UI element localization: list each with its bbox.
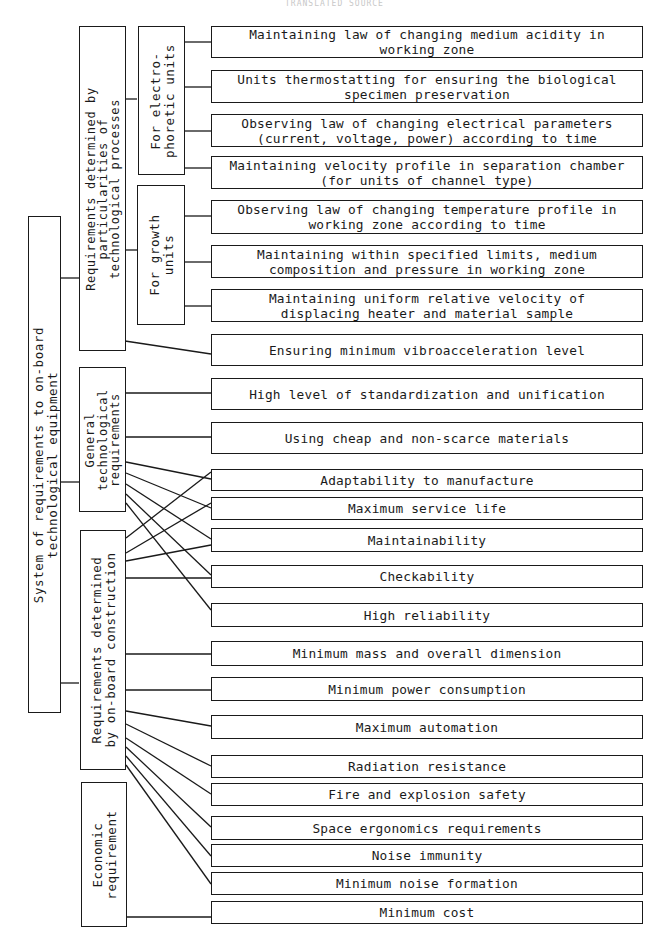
req-space-ergonomics: Space ergonomics requirements: [211, 816, 643, 840]
req-service-life: Maximum service life: [211, 497, 643, 520]
req-high-reliability: High reliability: [211, 603, 643, 627]
req-noise-formation: Minimum noise formation: [211, 872, 643, 895]
req-medium-acidity: Maintaining law of changing medium acidi…: [211, 26, 643, 58]
general-group-label: General technological requirements: [84, 389, 122, 491]
group-box-process-requirements: Requirements determined by particulariti…: [79, 26, 126, 351]
req-medium-composition: Maintaining within specified limits, med…: [211, 245, 643, 278]
root-box-system-of-requirements: System of requirements to on-board techn…: [28, 216, 61, 713]
root-label: System of requirements to on-board techn…: [31, 326, 58, 602]
process-group-label: Requirements determined by particulariti…: [85, 87, 121, 290]
subgroup-box-growth: For growth units: [137, 185, 185, 325]
group-box-economic: Economic requirement: [81, 782, 127, 927]
electrophoretic-label: For electro- phoretic units: [148, 44, 175, 158]
req-uniform-velocity: Maintaining uniform relative velocity of…: [211, 289, 643, 322]
req-thermostatting: Units thermostatting for ensuring the bi…: [211, 70, 643, 103]
req-temperature-profile: Observing law of changing temperature pr…: [211, 200, 643, 234]
group-box-construction: Requirements determined by on-board cons…: [80, 530, 126, 770]
req-adaptability: Adaptability to manufacture: [211, 469, 643, 491]
req-power-consumption: Minimum power consumption: [211, 677, 643, 701]
req-minimum-mass: Minimum mass and overall dimension: [211, 641, 643, 666]
req-maximum-automation: Maximum automation: [211, 715, 643, 739]
growth-label: For growth units: [148, 214, 175, 295]
subgroup-box-electrophoretic: For electro- phoretic units: [138, 26, 185, 175]
req-fire-explosion-safety: Fire and explosion safety: [211, 783, 643, 806]
req-radiation-resistance: Radiation resistance: [211, 755, 643, 778]
req-checkability: Checkability: [211, 565, 643, 588]
req-standardization: High level of standardization and unific…: [211, 378, 643, 410]
req-maintainability: Maintainability: [211, 528, 643, 552]
req-electrical-parameters: Observing law of changing electrical par…: [211, 114, 643, 147]
req-cheap-materials: Using cheap and non-scarce materials: [211, 422, 643, 454]
req-noise-immunity: Noise immunity: [211, 844, 643, 867]
req-vibroacceleration: Ensuring minimum vibroacceleration level: [211, 334, 643, 366]
group-box-general-technological: General technological requirements: [79, 367, 126, 512]
construction-group-label: Requirements determined by on-board cons…: [90, 552, 117, 747]
economic-group-label: Economic requirement: [91, 810, 118, 899]
req-velocity-profile: Maintaining velocity profile in separati…: [211, 156, 643, 189]
req-minimum-cost: Minimum cost: [211, 901, 643, 924]
